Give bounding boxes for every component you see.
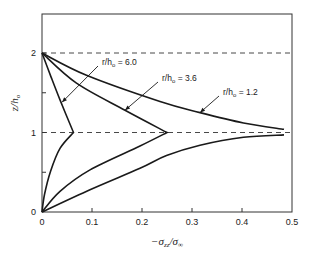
annotation-label-12: r/ho = 1.2 bbox=[223, 87, 258, 98]
annotation-arrow-36 bbox=[125, 82, 158, 110]
x-axis-title-sub2: ∞ bbox=[178, 241, 183, 249]
y-axis-title: z/ho bbox=[8, 94, 22, 112]
annotation-arrow-60 bbox=[62, 66, 98, 102]
y-tick-labels: 012 bbox=[31, 48, 36, 217]
curve-annotations: r/ho = 6.0r/ho = 3.6r/ho = 1.2 bbox=[62, 57, 258, 113]
x-tick-label: 0.4 bbox=[236, 217, 249, 227]
x-tick-label: 0.5 bbox=[286, 217, 299, 227]
x-axis-title-prefix: −σ bbox=[151, 235, 164, 247]
plot-area: r/ho = 6.0r/ho = 3.6r/ho = 1.2 bbox=[42, 14, 292, 212]
plot-frame bbox=[42, 14, 292, 212]
x-tick-label: 0.3 bbox=[186, 217, 199, 227]
curve-r-h0-12-lower bbox=[42, 135, 284, 212]
annotation-label-36: r/ho = 3.6 bbox=[162, 73, 197, 84]
x-tick-labels: 00.10.20.30.40.5 bbox=[39, 217, 298, 227]
y-tick-label: 2 bbox=[31, 48, 36, 58]
x-tick-label: 0 bbox=[39, 217, 44, 227]
y-tick-label: 0 bbox=[31, 207, 36, 217]
annotation-label-60: r/ho = 6.0 bbox=[102, 57, 137, 68]
stress-distribution-chart: r/ho = 6.0r/ho = 3.6r/ho = 1.2 00.10.20.… bbox=[0, 0, 312, 255]
x-axis-title: −σzz/σ∞ bbox=[151, 235, 183, 249]
y-tick-label: 1 bbox=[31, 128, 36, 138]
x-tick-label: 0.1 bbox=[86, 217, 99, 227]
x-tick-label: 0.2 bbox=[136, 217, 149, 227]
y-axis-title-main: z/h bbox=[8, 98, 20, 112]
y-axis-title-sub: o bbox=[14, 94, 22, 98]
